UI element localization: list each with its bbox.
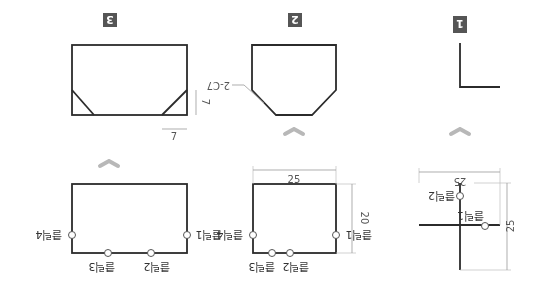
- step-3-chamfer-v-value: 7: [200, 99, 211, 105]
- step-1-number: 1: [456, 17, 464, 30]
- step-2-arrow-icon: [285, 129, 303, 134]
- step-3-result-shape: [72, 45, 187, 115]
- step-2-click-label-2: 클릭2: [283, 260, 310, 273]
- step-2-click-point-1: [333, 232, 340, 239]
- step-3-click-label-3: 클릭3: [89, 260, 116, 273]
- step-2-click-point-2: [287, 250, 294, 257]
- step-3-click-point-1: [184, 232, 191, 239]
- step-2-click-point-4: [250, 232, 257, 239]
- step-3-badge: 3: [103, 13, 117, 27]
- step-2-width-value: 25: [288, 174, 301, 185]
- step-1-click-label-1: 클릭1: [457, 209, 484, 222]
- step-3-rectangle: [72, 184, 187, 253]
- step-3-chamfer-right: [72, 90, 94, 115]
- diagram-canvas: 1 클릭1 클릭2 25 25 2 2-C7: [0, 0, 554, 292]
- step-3-click-point-2: [148, 250, 155, 257]
- step-1-badge: 1: [453, 16, 467, 33]
- step-2-result-shape: [252, 45, 336, 115]
- step-2-badge: 2: [288, 13, 302, 27]
- step-2-click-label-1: 클릭1: [346, 228, 373, 241]
- step-1-click-label-2: 클릭2: [428, 189, 455, 202]
- step-3-click-point-4: [69, 232, 76, 239]
- step-1-click-point-2: [457, 193, 464, 200]
- step-2-click-point-3: [269, 250, 276, 257]
- step-3-click-label-4: 클릭4: [36, 228, 63, 241]
- step-2-chamfer-leader: [232, 85, 264, 103]
- step-2-number: 2: [291, 13, 299, 26]
- step-3-number: 3: [106, 13, 114, 26]
- step-1-click-point-1: [482, 223, 489, 230]
- step-3-panel: 3 7 7 클릭1 클릭2 클릭3 클릭4: [36, 13, 223, 273]
- step-3-chamfer-left: [162, 90, 187, 115]
- step-2-panel: 2 2-C7 클릭1 클릭2 클릭3 클릭4 25 20: [207, 13, 373, 273]
- step-3-click-label-1: 클릭1: [196, 228, 223, 241]
- step-3-arrow-icon: [100, 161, 118, 166]
- step-3-click-point-3: [105, 250, 112, 257]
- step-2-rectangle: [253, 184, 336, 253]
- cad-steps-diagram: 1 클릭1 클릭2 25 25 2 2-C7: [0, 0, 554, 292]
- step-1-result-shape: [460, 43, 500, 87]
- step-1-panel: 1 클릭1 클릭2 25 25: [419, 16, 516, 270]
- step-2-click-label-3: 클릭3: [249, 260, 276, 273]
- step-1-height-value: 25: [505, 220, 516, 233]
- step-2-height-value: 20: [359, 212, 370, 225]
- step-1-width-value: 25: [454, 176, 467, 187]
- step-1-arrow-icon: [451, 129, 469, 134]
- step-3-chamfer-h-value: 7: [171, 131, 177, 142]
- step-2-chamfer-note: 2-C7: [207, 80, 230, 91]
- step-3-click-label-2: 클릭2: [144, 260, 171, 273]
